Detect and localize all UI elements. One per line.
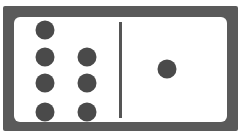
left-pip (36, 103, 55, 122)
right-pip (158, 60, 177, 79)
domino-divider (119, 22, 122, 118)
left-pip (78, 74, 97, 93)
domino-tile (3, 6, 238, 131)
left-pip (36, 74, 55, 93)
left-pip (78, 48, 97, 67)
domino-face (14, 17, 227, 122)
left-pip (36, 48, 55, 67)
left-pip (36, 21, 55, 40)
left-pip (78, 103, 97, 122)
